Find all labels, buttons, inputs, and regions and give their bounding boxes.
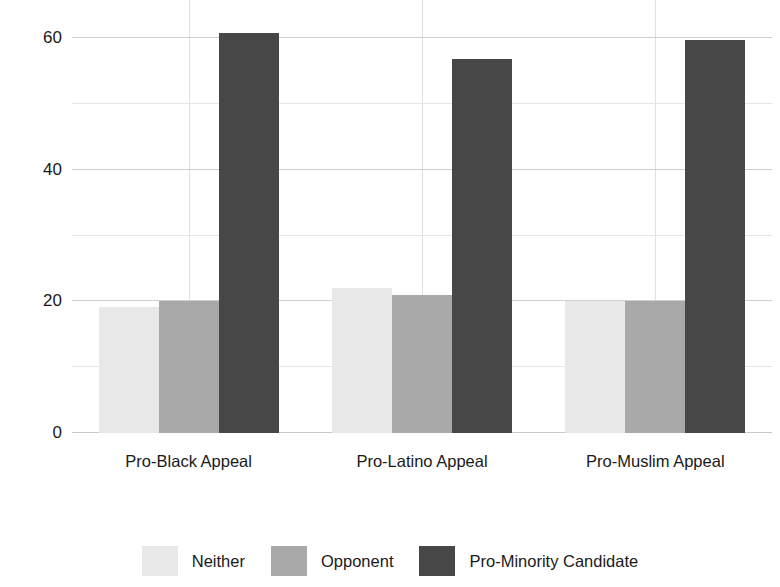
y-axis-tick-label: 40 bbox=[43, 160, 62, 180]
legend-item: Opponent bbox=[271, 546, 393, 576]
bar bbox=[452, 59, 512, 433]
legend-swatch bbox=[271, 546, 307, 576]
legend-swatch bbox=[419, 546, 455, 576]
chart-legend: NeitherOpponentPro-Minority Candidate bbox=[0, 546, 780, 576]
legend-item: Neither bbox=[142, 546, 245, 576]
bar bbox=[99, 307, 159, 433]
bar bbox=[159, 301, 219, 433]
y-axis-tick-label: 0 bbox=[53, 423, 62, 443]
bars-layer bbox=[72, 12, 772, 433]
legend-swatch bbox=[142, 546, 178, 576]
bar bbox=[685, 40, 745, 433]
y-axis-tick-label: 60 bbox=[43, 28, 62, 48]
legend-label: Opponent bbox=[321, 552, 393, 571]
bar bbox=[392, 295, 452, 433]
plot-area: 0204060 bbox=[72, 12, 772, 433]
bar bbox=[565, 301, 625, 433]
bar-chart-figure: % of Vote 0204060 Pro-Black AppealPro-La… bbox=[0, 0, 780, 587]
x-axis-category-label: Pro-Black Appeal bbox=[125, 452, 252, 471]
legend-label: Neither bbox=[192, 552, 245, 571]
bar bbox=[219, 33, 279, 433]
bar bbox=[625, 301, 685, 433]
legend-label: Pro-Minority Candidate bbox=[469, 552, 638, 571]
legend-item: Pro-Minority Candidate bbox=[419, 546, 638, 576]
x-axis-category-label: Pro-Muslim Appeal bbox=[586, 452, 724, 471]
y-axis-tick-label: 20 bbox=[43, 291, 62, 311]
bar bbox=[332, 288, 392, 433]
x-axis-category-label: Pro-Latino Appeal bbox=[356, 452, 487, 471]
